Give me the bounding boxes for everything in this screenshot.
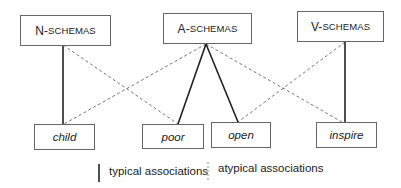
word-box-child: child xyxy=(34,124,95,150)
schema-rest: SCHEMAS xyxy=(322,21,370,32)
word-label: inspire xyxy=(330,129,364,141)
edge-atypical-n-poor xyxy=(63,45,178,124)
word-box-open: open xyxy=(211,122,271,148)
legend-atypical-swatch xyxy=(205,160,211,184)
edge-atypical-a-child xyxy=(64,44,206,124)
schema-prefix: A- xyxy=(178,22,190,36)
word-label: open xyxy=(228,129,254,141)
legend-typical-label: typical associations xyxy=(109,165,208,177)
legend-typical-swatch xyxy=(96,162,102,184)
v-schemas-box: V-SCHEMAS xyxy=(297,11,384,42)
word-label: poor xyxy=(161,131,184,143)
schema-prefix: V- xyxy=(311,20,323,34)
word-label: child xyxy=(53,131,77,143)
edge-atypical-v-open xyxy=(238,42,345,122)
word-box-inspire: inspire xyxy=(316,122,377,148)
edge-atypical-a-inspire xyxy=(206,44,342,122)
word-box-poor: poor xyxy=(142,124,204,149)
edge-typical-a-poor xyxy=(178,44,206,124)
n-schemas-box: N-SCHEMAS xyxy=(20,15,111,46)
schema-rest: SCHEMAS xyxy=(190,23,238,34)
schema-rest: SCHEMAS xyxy=(48,25,96,36)
a-schemas-box: A-SCHEMAS xyxy=(163,13,252,44)
edge-typical-a-open xyxy=(206,44,238,122)
legend-atypical-label: atypical associations xyxy=(218,162,323,174)
schema-prefix: N- xyxy=(35,24,48,38)
